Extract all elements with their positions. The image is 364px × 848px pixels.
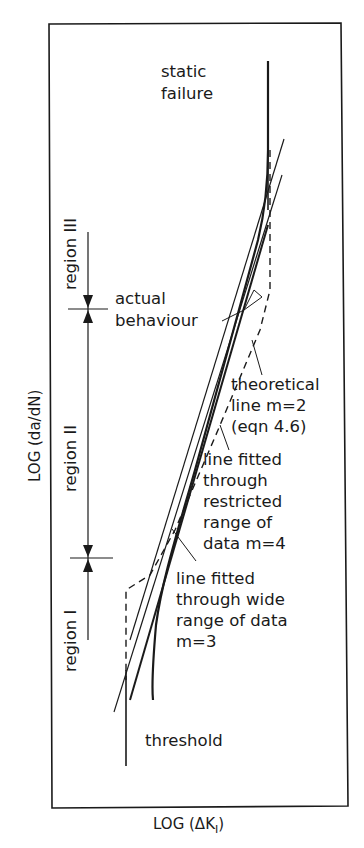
wide-label: line fitted bbox=[176, 569, 255, 588]
restricted-label-3: restricted bbox=[203, 492, 282, 511]
theoretical-label-2: line m=2 bbox=[231, 396, 306, 415]
wide-label-2: through wide bbox=[176, 590, 285, 609]
x-axis-label-close: ) bbox=[218, 815, 224, 833]
region-1-label: region I bbox=[61, 610, 80, 672]
region-2-label: region II bbox=[61, 425, 80, 492]
restricted-leader bbox=[220, 425, 229, 450]
region-3-label: region III bbox=[61, 218, 80, 290]
arrow-down-lower bbox=[83, 545, 93, 557]
threshold-label: threshold bbox=[145, 731, 223, 750]
actual-behaviour-label: actual bbox=[115, 289, 166, 308]
restricted-label-5: data m=4 bbox=[203, 534, 286, 553]
theoretical-label: theoretical bbox=[231, 375, 320, 394]
static-failure-label: static bbox=[161, 62, 206, 81]
x-axis-label-main: LOG (ΔK bbox=[153, 815, 216, 833]
theoretical-leader bbox=[252, 340, 262, 375]
x-axis-label: LOG (ΔKI) bbox=[153, 815, 224, 836]
plot-frame bbox=[50, 24, 348, 206]
crack-growth-diagram: static failure region III region II regi… bbox=[0, 0, 364, 848]
arrow-up-upper bbox=[83, 310, 93, 323]
static-failure-label-2: failure bbox=[161, 84, 213, 103]
arrow-down-upper bbox=[83, 295, 93, 308]
wide-label-3: range of data bbox=[176, 611, 288, 630]
y-axis-label: LOG (da/dN) bbox=[26, 390, 44, 482]
theoretical-label-3: (eqn 4.6) bbox=[231, 417, 306, 436]
actual-behaviour-label-2: behaviour bbox=[115, 311, 198, 330]
restricted-label-4: range of bbox=[203, 513, 273, 532]
restricted-label-2: through bbox=[203, 471, 268, 490]
restricted-label: line fitted bbox=[203, 450, 282, 469]
wide-label-4: m=3 bbox=[176, 632, 216, 651]
arrow-up-lower bbox=[83, 559, 93, 572]
